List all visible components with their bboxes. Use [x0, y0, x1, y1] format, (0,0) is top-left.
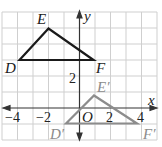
y-axis-label: y [82, 8, 91, 24]
vertex-label-d: D [4, 60, 16, 76]
y-tick-label: 2 [69, 71, 76, 86]
vertex-label-e-prime: E′ [96, 79, 110, 95]
x-tick-label: −4 [5, 110, 20, 125]
coordinate-grid-diagram: y x O −4 −2 2 4 2 D E F D′ E′ F′ [0, 0, 162, 147]
vertex-label-f-prime: F′ [142, 126, 156, 142]
y-axis-down-arrow-icon [77, 133, 82, 140]
vertex-label-d-prime: D′ [49, 126, 65, 142]
x-tick-label: 4 [137, 110, 144, 125]
vertex-label-e: E [36, 11, 46, 27]
x-tick-label: −2 [36, 110, 51, 125]
x-axis-label: x [147, 92, 155, 108]
vertex-label-f: F [95, 60, 106, 76]
